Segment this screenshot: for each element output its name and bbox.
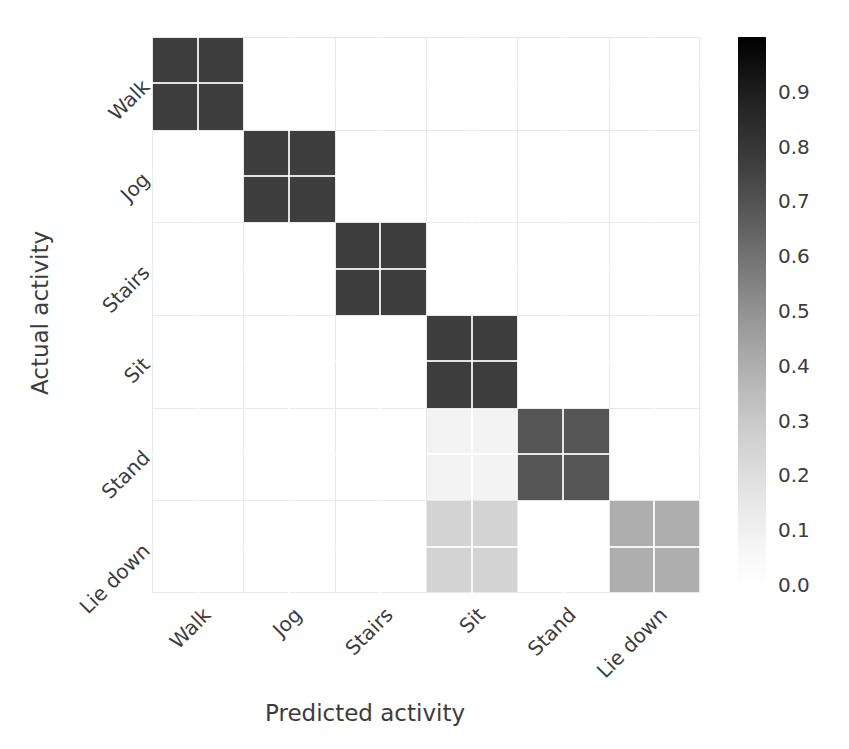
y-axis-title: Actual activity — [27, 213, 53, 413]
colorbar-tick-0-7: 0.7 — [778, 190, 810, 212]
heatmap-cell — [426, 500, 517, 593]
x-tick-label-wrap: Lie down — [504, 602, 654, 628]
colorbar-tick-0-1: 0.1 — [778, 519, 810, 541]
y-tick-label-stand: Stand — [96, 445, 156, 505]
heatmap-cell — [609, 500, 700, 593]
colorbar-gradient — [738, 37, 766, 585]
colorbar-tick-0-0: 0.0 — [778, 574, 810, 596]
colorbar-tick-0-5: 0.5 — [778, 300, 810, 322]
y-tick-label-stairs: Stairs — [97, 259, 156, 318]
colorbar-tick-0-4: 0.4 — [778, 355, 810, 377]
y-tick-label-wrap: Lie down — [0, 534, 146, 560]
y-tick-label-jog: Jog — [115, 167, 155, 207]
colorbar-tick-0-8: 0.8 — [778, 136, 810, 158]
heatmap-cell — [243, 130, 334, 223]
y-tick-label-wrap: Stand — [0, 441, 146, 467]
y-tick-label-wrap: Stairs — [0, 256, 146, 282]
x-axis-title: Predicted activity — [0, 700, 730, 726]
colorbar: 0.90.80.70.60.50.40.30.20.10.0 — [738, 37, 838, 593]
y-tick-label-sit: Sit — [118, 352, 155, 389]
colorbar-tick-0-9: 0.9 — [778, 81, 810, 103]
heatmap-cell — [426, 315, 517, 408]
heatmap-plot-area — [152, 37, 700, 593]
y-tick-label-wrap: Jog — [0, 163, 146, 189]
heatmap-cell — [426, 408, 517, 501]
heatmap-cells — [152, 37, 700, 593]
y-tick-label-walk: Walk — [103, 74, 155, 126]
heatmap-cell — [335, 222, 426, 315]
colorbar-tick-0-3: 0.3 — [778, 410, 810, 432]
confusion-matrix-figure: WalkJogStairsSitStandLie down WalkJogSta… — [0, 0, 849, 749]
colorbar-tick-0-6: 0.6 — [778, 245, 810, 267]
y-tick-label-wrap: Sit — [0, 348, 146, 374]
y-tick-label-wrap: Walk — [0, 70, 146, 96]
heatmap-cell — [152, 37, 243, 130]
heatmap-cell — [517, 408, 608, 501]
x-tick-label-lie-down: Lie down — [591, 602, 673, 684]
colorbar-tick-0-2: 0.2 — [778, 464, 810, 486]
